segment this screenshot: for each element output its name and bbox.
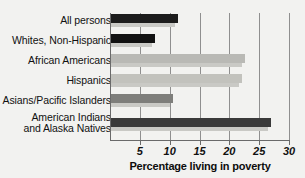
x-axis-title: Percentage living in poverty [110, 160, 290, 172]
category-label-hispanics: Hispanics [0, 75, 111, 86]
bar-american-indians-alaska-natives [110, 118, 271, 127]
bar-hispanics [110, 74, 242, 83]
tick-label-20: 20 [223, 145, 235, 157]
tick-label-25: 25 [253, 145, 265, 157]
category-label-all-persons: All persons [0, 15, 111, 26]
bar-african-americans [110, 54, 245, 63]
bar-asians-pacific-islanders [110, 94, 173, 103]
tick-label-10: 10 [164, 145, 176, 157]
category-label-asians-pacific-islanders: Asians/Pacific Islanders [0, 95, 111, 106]
tick-label-5: 5 [137, 145, 143, 157]
bar-whites-non-hispanic [110, 34, 155, 43]
plot-area [110, 13, 289, 140]
gridline-30 [289, 13, 290, 140]
category-label-american-indians-alaska-natives: American Indians and Alaska Natives [0, 112, 111, 133]
tick-label-30: 30 [283, 145, 295, 157]
bar-all-persons [110, 14, 178, 23]
category-label-whites-non-hispanic: Whites, Non-Hispanic [0, 35, 111, 46]
tick-label-15: 15 [193, 145, 205, 157]
y-axis-line [110, 13, 111, 141]
category-label-african-americans: African Americans [0, 55, 111, 66]
poverty-bar-chart: All persons Whites, Non-Hispanic African… [0, 0, 305, 178]
